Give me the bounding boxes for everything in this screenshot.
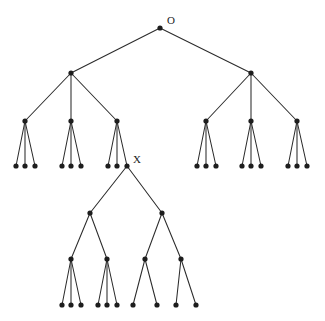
tree-node [59,163,64,168]
tree-node [248,163,253,168]
tree-edge [176,259,181,305]
tree-edge [117,121,127,166]
tree-edge [71,73,117,121]
tree-edge [206,73,251,121]
tree-node [154,302,159,307]
tree-node [213,163,218,168]
tree-node [142,256,147,261]
tree-node [22,118,27,123]
tree-edge [16,121,25,166]
tree-node [258,163,263,168]
tree-edge [90,166,127,213]
tree-edge [288,121,297,166]
tree-node [104,256,109,261]
tree-node [78,302,83,307]
tree-edge [71,213,90,259]
tree-edge [108,121,117,166]
tree-node [203,163,208,168]
tree-edge [242,121,251,166]
tree-graph-canvas: OX [0,0,325,321]
tree-edge [98,259,107,305]
node-layer [13,25,309,307]
tree-node-labeled [124,163,129,168]
tree-edge [160,28,251,73]
tree-node [294,163,299,168]
tree-node [178,256,183,261]
tree-node [304,163,309,168]
tree-node [194,163,199,168]
tree-node [105,163,110,168]
tree-edge [25,121,35,166]
tree-node [114,118,119,123]
tree-node [68,118,73,123]
tree-node [203,118,208,123]
tree-edge [127,166,162,213]
tree-node [173,302,178,307]
tree-edge [197,121,206,166]
tree-edge [181,259,196,305]
tree-edge [62,259,71,305]
tree-node [193,302,198,307]
tree-node [285,163,290,168]
tree-node [294,118,299,123]
tree-node [68,163,73,168]
tree-node [22,163,27,168]
tree-node [248,118,253,123]
node-label-x: X [133,153,141,165]
tree-edge [162,213,181,259]
tree-edge [251,121,261,166]
tree-node [32,163,37,168]
tree-node [68,256,73,261]
tree-edge [71,259,81,305]
tree-edge [251,73,297,121]
tree-node [87,210,92,215]
tree-diagram-figure: OX [0,0,325,321]
tree-node [95,302,100,307]
tree-edge [133,259,145,305]
node-label-o: O [167,14,175,26]
tree-edge [71,121,81,166]
tree-node [114,163,119,168]
tree-node [104,302,109,307]
tree-node-labeled [157,25,162,30]
tree-node [239,163,244,168]
tree-node [68,302,73,307]
tree-node [130,302,135,307]
tree-node [78,163,83,168]
tree-node [13,163,18,168]
tree-edge [71,28,160,73]
tree-node [248,70,253,75]
tree-node [59,302,64,307]
tree-edge [297,121,307,166]
tree-edge [107,259,117,305]
tree-edge [25,73,71,121]
tree-node [68,70,73,75]
node-label-layer: OX [133,14,175,165]
tree-node [114,302,119,307]
tree-edge [206,121,216,166]
tree-node [159,210,164,215]
tree-edge [62,121,71,166]
tree-edge [90,213,107,259]
tree-edge [145,259,157,305]
tree-edge [145,213,162,259]
